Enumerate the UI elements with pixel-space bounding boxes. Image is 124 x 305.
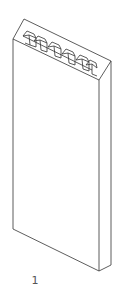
figure-label: 1 xyxy=(30,274,40,287)
board-drawing xyxy=(0,0,124,305)
top-notches xyxy=(23,31,97,76)
board-top-face xyxy=(13,19,111,80)
board-side-face xyxy=(99,61,111,271)
